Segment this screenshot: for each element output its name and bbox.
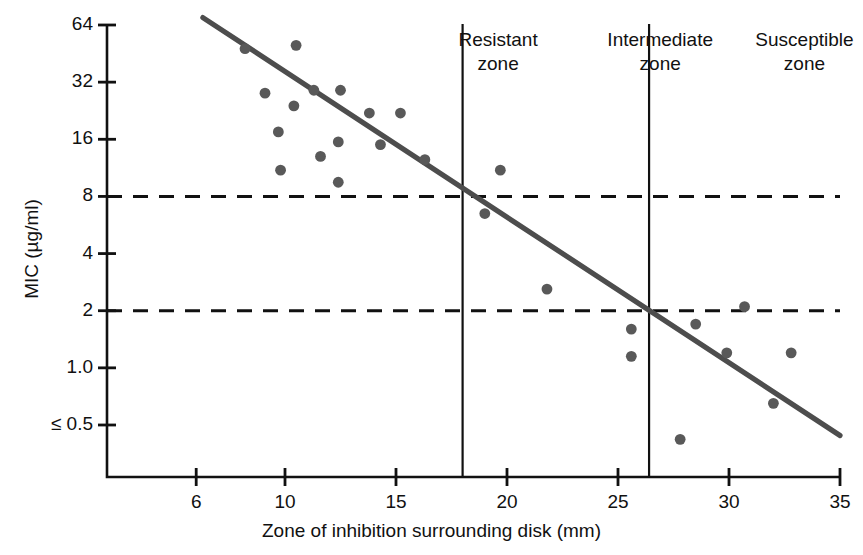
y-tick-label: 8 [82,184,93,206]
regression-line [203,18,840,436]
y-tick-label: 4 [82,242,93,264]
data-point [690,319,701,330]
data-point [335,85,346,96]
y-tick-label: 2 [82,299,93,321]
x-tick-label: 25 [607,491,628,513]
x-tick-label: 30 [718,491,739,513]
plot-canvas [0,0,863,555]
data-point [419,154,430,165]
zone-label-susceptible: Susceptiblezone [755,28,853,76]
data-point [542,284,553,295]
x-tick-label: 6 [191,491,202,513]
y-tick-label: ≤ 0.5 [51,413,93,435]
y-tick-label: 64 [72,13,93,35]
data-point [739,301,750,312]
zone-label-intermediate: Intermediatezone [607,28,713,76]
y-tick-label: 16 [72,127,93,149]
zone-label-line-2: zone [459,52,538,76]
data-point [721,347,732,358]
zone-label-line-2: zone [755,52,853,76]
zone-label-line-1: Resistant [459,28,538,52]
zone-label-resistant: Resistantzone [459,28,538,76]
data-point [308,85,319,96]
data-point [375,139,386,150]
x-tick-label: 15 [385,491,406,513]
data-point [288,100,299,111]
data-point [364,108,375,119]
x-tick-label: 35 [829,491,850,513]
data-points-group [240,40,797,445]
data-point [315,151,326,162]
axes-group [98,24,840,486]
data-point [260,88,271,99]
zone-label-line-1: Intermediate [607,28,713,52]
data-point [786,347,797,358]
data-point [273,126,284,137]
data-point [479,208,490,219]
breakpoint-lines-group [107,196,840,310]
data-point [333,177,344,188]
zone-label-line-1: Susceptible [755,28,853,52]
y-axis-title: MIC (µg/ml) [21,169,43,329]
regression-line-group [203,18,840,436]
data-point [626,324,637,335]
y-tick-label: 32 [72,70,93,92]
data-point [768,398,779,409]
data-point [495,165,506,176]
x-tick-label: 10 [274,491,295,513]
data-point [395,108,406,119]
y-tick-label: 1.0 [67,356,93,378]
x-axis-title: Zone of inhibition surrounding disk (mm) [0,520,863,542]
data-point [291,40,302,51]
data-point [275,165,286,176]
x-tick-label: 20 [496,491,517,513]
axis-spine [107,24,840,477]
data-point [675,434,686,445]
zone-label-line-2: zone [607,52,713,76]
chart-figure: 6432168421.0≤ 0.5 6101520253035 Resistan… [0,0,863,555]
data-point [240,43,251,54]
data-point [333,137,344,148]
data-point [626,351,637,362]
